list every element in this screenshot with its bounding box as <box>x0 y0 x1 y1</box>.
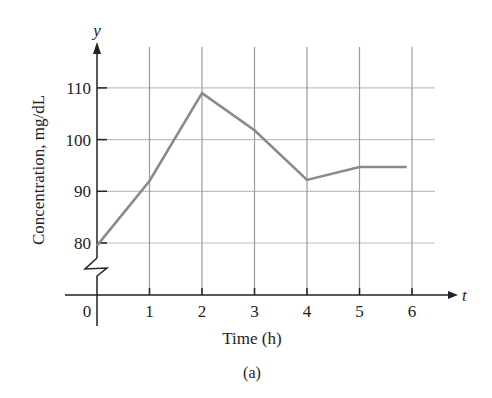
y-axis-arrow-icon <box>93 42 101 54</box>
x-tick-label: 4 <box>303 302 312 321</box>
x-tick-label: 1 <box>145 302 154 321</box>
x-tick-label: 2 <box>198 302 207 321</box>
y-axis-symbol: y <box>91 21 101 40</box>
axes: 80901001100123456 <box>65 42 458 326</box>
figure-caption: (a) <box>243 364 261 382</box>
x-axis-label: Time (h) <box>222 329 281 348</box>
x-axis-arrow-icon <box>448 291 458 299</box>
data-series <box>97 93 407 246</box>
x-axis-symbol: t <box>462 286 468 305</box>
x-tick-label: 0 <box>83 302 92 321</box>
y-tick-label: 90 <box>74 182 91 201</box>
axis-labels: Concentration, mg/dL Time (h) (a) y t <box>29 21 468 382</box>
line-chart: 80901001100123456 Concentration, mg/dL T… <box>0 0 492 398</box>
x-tick-label: 3 <box>250 302 259 321</box>
concentration-line <box>97 93 407 246</box>
y-tick-label: 110 <box>66 79 91 98</box>
y-tick-label: 80 <box>74 234 91 253</box>
grid-lines <box>97 47 435 295</box>
y-tick-label: 100 <box>66 131 92 150</box>
x-tick-label: 5 <box>355 302 364 321</box>
x-tick-label: 6 <box>408 302 417 321</box>
y-axis-label: Concentration, mg/dL <box>29 95 48 245</box>
